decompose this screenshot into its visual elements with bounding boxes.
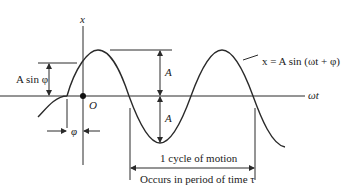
cycle-label: 1 cycle of motion [160, 152, 238, 164]
equation-leader [243, 55, 258, 60]
period-label: Occurs in period of time τ [140, 173, 255, 185]
origin-label: O [89, 99, 97, 111]
amplitude-upper-label: A [164, 66, 172, 78]
amplitude-lower-label: A [164, 112, 172, 124]
shm-diagram: x ωt O x = A sin (ωt + φ) A A A sin φ φ … [0, 0, 348, 192]
vertical-axis-label: x [79, 13, 85, 25]
equation-label: x = A sin (ωt + φ) [262, 55, 340, 68]
phase-label: φ [71, 125, 77, 137]
horizontal-axis-label: ωt [308, 89, 320, 101]
initial-displacement-label: A sin φ [16, 73, 48, 85]
origin-point [80, 93, 86, 99]
